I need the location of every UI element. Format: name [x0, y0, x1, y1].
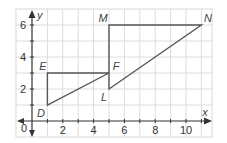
coordinate-plane: 2 4 6 8 10 2 4 6 0 y x D E F L M N [0, 0, 227, 143]
x-tick-label-6: 6 [121, 124, 127, 136]
x-tick-label-10: 10 [180, 124, 192, 136]
point-label-M: M [98, 12, 108, 24]
point-label-D: D [37, 107, 45, 119]
y-tick-label-4: 4 [20, 51, 26, 63]
y-tick-label-6: 6 [20, 19, 26, 31]
x-tick-label-4: 4 [91, 124, 97, 136]
x-tick-label-2: 2 [60, 124, 66, 136]
point-label-L: L [101, 91, 107, 103]
x-tick-label-8: 8 [152, 124, 158, 136]
origin-label: 0 [21, 122, 27, 134]
y-tick-label-2: 2 [20, 83, 26, 95]
x-axis-label: x [201, 106, 208, 118]
point-label-N: N [204, 12, 212, 24]
point-label-E: E [39, 60, 47, 72]
